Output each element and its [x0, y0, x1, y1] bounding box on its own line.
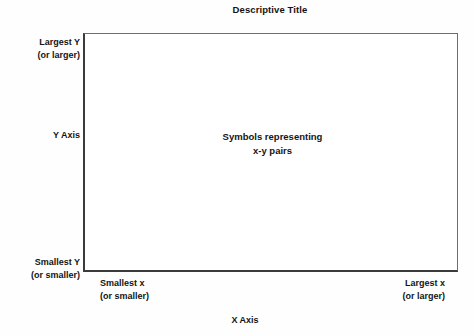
- plot-annotation-line1: Symbols representing: [223, 131, 323, 142]
- y-axis-title-text: Y Axis: [53, 130, 80, 140]
- chart-title-text: Descriptive Title: [233, 4, 308, 15]
- y-axis-max-sublabel-text: (or larger): [37, 49, 80, 62]
- y-axis-min-label: Smallest Y (or smaller): [31, 256, 80, 281]
- y-axis-min-sublabel-text: (or smaller): [31, 269, 80, 282]
- x-axis-max-label: Largest x (or larger): [402, 277, 445, 302]
- x-axis-max-label-text: Largest x: [405, 278, 445, 288]
- y-axis-max-label: Largest Y (or larger): [37, 36, 80, 61]
- plot-area: Symbols representing x-y pairs: [83, 33, 458, 272]
- x-axis-title: X Axis: [0, 314, 474, 327]
- y-axis-min-label-text: Smallest Y: [35, 257, 80, 267]
- x-axis-max-sublabel-text: (or larger): [402, 290, 445, 303]
- x-axis-title-text: X Axis: [231, 314, 258, 327]
- y-axis-title: Y Axis: [53, 129, 80, 142]
- plot-annotation: Symbols representing x-y pairs: [85, 130, 460, 157]
- scatter-plot-figure: Descriptive Title Symbols representing x…: [0, 0, 474, 335]
- x-axis-min-sublabel-text: (or smaller): [100, 290, 149, 303]
- x-axis-min-label-text: Smallest x: [100, 278, 145, 288]
- plot-annotation-line2: x-y pairs: [85, 144, 460, 158]
- y-axis-max-label-text: Largest Y: [39, 37, 80, 47]
- page-title: Descriptive Title: [0, 4, 474, 15]
- x-axis-min-label: Smallest x (or smaller): [100, 277, 149, 302]
